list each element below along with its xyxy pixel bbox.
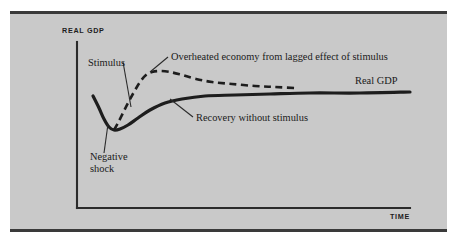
x-axis-label: TIME: [390, 212, 410, 221]
annotation-recovery-without-stimulus: Recovery without stimulus: [196, 112, 308, 123]
annotation-negative-shock-line2: shock: [90, 163, 115, 174]
y-axis-label: REAL GDP: [62, 26, 105, 35]
series-label-real-gdp: Real GDP: [355, 75, 398, 86]
annotations-group: Stimulus Overheated economy from lagged …: [88, 51, 398, 174]
negative-shock-leader-line: [104, 124, 108, 153]
annotation-negative-shock-line1: Negative: [90, 151, 128, 162]
gdp-shock-recovery-chart: REAL GDP TIME Stimulus Overheated econom…: [0, 0, 459, 248]
recovery-leader-line: [170, 99, 193, 117]
overheated-leader-line: [150, 57, 168, 72]
figure-root: REAL GDP TIME Stimulus Overheated econom…: [0, 0, 459, 248]
stimulus-leader-line: [123, 62, 131, 107]
annotation-stimulus: Stimulus: [88, 57, 125, 68]
annotation-overheated-economy: Overheated economy from lagged effect of…: [171, 51, 388, 62]
leader-lines-group: [104, 57, 193, 153]
